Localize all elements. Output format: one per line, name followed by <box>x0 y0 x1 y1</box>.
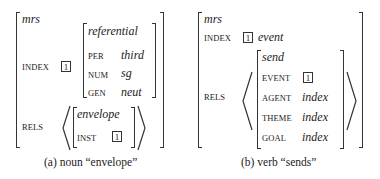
list-right-angle-bracket <box>346 72 358 130</box>
feature-gen-value: neut <box>121 86 142 98</box>
feature-index-label: INDEX <box>22 63 49 72</box>
caption-a: (a) noun “envelope” <box>44 157 137 169</box>
caption-b: (b) verb “sends” <box>241 157 316 169</box>
feature-inst-label: INST <box>77 134 96 143</box>
coindex-tag: 1 <box>243 32 253 43</box>
coindex-tag: 1 <box>112 131 122 142</box>
feature-num-label: NUM <box>88 71 108 80</box>
avm-type-mrs: mrs <box>204 13 222 25</box>
list-right-angle-bracket <box>137 106 147 150</box>
feature-theme-label: THEME <box>262 114 292 123</box>
feature-per-value: third <box>121 49 144 61</box>
feature-agent-label: AGENT <box>262 94 291 103</box>
feature-per-label: PER <box>88 52 104 61</box>
feature-event-label: EVENT <box>262 74 290 83</box>
inner-left-bracket <box>83 23 87 98</box>
coindex-tag: 1 <box>303 72 313 83</box>
rels-item-left-bracket <box>257 50 261 149</box>
feature-theme-value: index <box>302 111 328 123</box>
outer-right-bracket <box>359 12 363 148</box>
inner-right-bracket <box>152 23 156 98</box>
feature-gen-label: GEN <box>88 89 106 98</box>
list-left-angle-bracket <box>62 106 72 150</box>
feature-goal-label: GOAL <box>262 134 286 143</box>
outer-right-bracket <box>160 12 164 148</box>
outer-left-bracket <box>16 12 20 148</box>
index-value-event: event <box>258 31 283 43</box>
avm-type-envelope: envelope <box>77 108 120 120</box>
avm-type-mrs: mrs <box>22 13 40 25</box>
feature-rels-label: RELS <box>22 123 43 132</box>
feature-num-value: sg <box>121 67 132 79</box>
outer-left-bracket <box>198 12 202 148</box>
coindex-tag: 1 <box>61 61 71 72</box>
rels-item-right-bracket <box>131 107 135 148</box>
avm-type-referential: referential <box>88 25 138 37</box>
feature-goal-value: index <box>302 131 328 143</box>
feature-index-label: INDEX <box>204 34 231 43</box>
avm-type-send: send <box>262 51 284 63</box>
feature-agent-value: index <box>302 91 328 103</box>
rels-item-right-bracket <box>340 50 344 149</box>
feature-rels-label: RELS <box>204 93 225 102</box>
list-left-angle-bracket <box>242 72 254 130</box>
